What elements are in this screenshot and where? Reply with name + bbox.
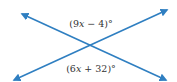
bottom-angle-close: + 32)° (81, 63, 116, 74)
top-angle-label: (9x − 4)° (69, 19, 113, 29)
top-angle-close: − 4)° (84, 18, 113, 29)
bottom-angle-open: (6 (66, 63, 76, 74)
vertical-angles-diagram: (9x − 4)° (6x + 32)° (0, 0, 177, 82)
top-angle-open: (9 (69, 18, 79, 29)
bottom-angle-label: (6x + 32)° (66, 64, 116, 74)
